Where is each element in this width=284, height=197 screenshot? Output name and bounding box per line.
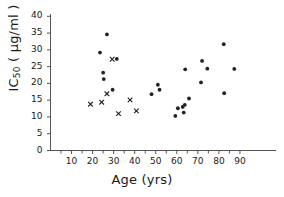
x-tick-label: 80: [211, 156, 227, 166]
x-tick-label: 20: [85, 156, 101, 166]
data-point-filled: [150, 92, 154, 96]
data-point-filled: [173, 114, 177, 118]
data-point-filled: [222, 91, 226, 95]
x-tick-label: 40: [127, 156, 143, 166]
data-point-filled: [105, 33, 109, 37]
data-point-filled: [222, 42, 226, 46]
x-tick-label: 90: [232, 156, 248, 166]
y-axis-label-units: ( µg/ml ): [6, 5, 21, 67]
data-point-filled: [156, 83, 160, 87]
x-tick-label: 70: [190, 156, 206, 166]
data-point-filled: [205, 67, 209, 71]
y-tick-label: 25: [27, 61, 43, 71]
data-point-filled: [183, 67, 187, 71]
x-tick-label: 50: [148, 156, 164, 166]
data-point-filled: [101, 71, 105, 75]
y-tick-label: 10: [27, 111, 43, 121]
x-tick-label: 10: [64, 156, 80, 166]
data-point-filled: [199, 80, 203, 84]
y-tick-label: 35: [27, 27, 43, 37]
y-tick-label: 30: [27, 44, 43, 54]
plot-canvas: [0, 0, 284, 197]
data-point-filled: [102, 77, 106, 81]
data-point-filled: [182, 111, 186, 115]
data-point-filled: [158, 88, 162, 92]
scatter-plot-figure: IC50 ( µg/ml ) Age (yrs) 051015202530354…: [0, 0, 284, 197]
data-point-filled: [115, 57, 119, 61]
data-point-filled: [183, 103, 187, 107]
y-axis-label-subscript: 50: [12, 66, 22, 78]
data-point-filled: [200, 59, 204, 63]
y-tick-label: 5: [27, 128, 43, 138]
y-axis-label-main: IC: [6, 78, 21, 91]
x-axis-label: Age (yrs): [0, 172, 284, 187]
x-tick-label: 30: [106, 156, 122, 166]
y-tick-label: 40: [27, 10, 43, 20]
x-tick-label: 60: [169, 156, 185, 166]
y-tick-label: 20: [27, 77, 43, 87]
data-point-filled: [187, 97, 191, 101]
data-point-filled: [98, 51, 102, 55]
y-tick-label: 0: [27, 145, 43, 155]
data-point-filled: [111, 88, 115, 92]
y-axis-label: IC50 ( µg/ml ): [6, 0, 22, 108]
data-point-filled: [232, 67, 236, 71]
data-point-filled: [176, 106, 180, 110]
y-tick-label: 15: [27, 94, 43, 104]
